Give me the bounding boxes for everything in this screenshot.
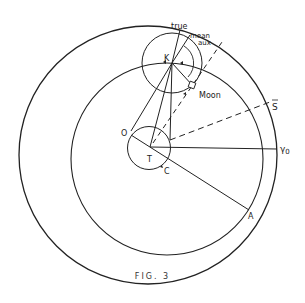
moon-marker	[188, 81, 196, 89]
gamma-subscript: 0	[285, 148, 289, 156]
arrow-moon	[183, 92, 186, 95]
label-gamma0: γ0	[280, 144, 290, 156]
line-C-K	[170, 63, 172, 140]
line-true	[172, 30, 180, 63]
label-A: A	[248, 212, 254, 221]
lunar-model-diagram: true mean aux K Moon S O T C γ0 A	[0, 0, 305, 303]
label-T: T	[146, 155, 152, 164]
label-true: true	[171, 22, 187, 31]
figure-caption: FIG. 3	[0, 272, 305, 281]
inner-arc-K	[184, 46, 194, 77]
line-T-K	[150, 63, 172, 147]
label-aux: aux	[198, 39, 211, 47]
line-O-K	[131, 63, 172, 131]
line-O-A	[131, 135, 249, 210]
label-O: O	[121, 129, 127, 138]
line-T-gamma0	[150, 147, 277, 149]
label-S-bar: S	[272, 102, 278, 112]
label-K: K	[164, 54, 170, 63]
label-moon: Moon	[199, 91, 221, 100]
label-C: C	[164, 167, 170, 176]
